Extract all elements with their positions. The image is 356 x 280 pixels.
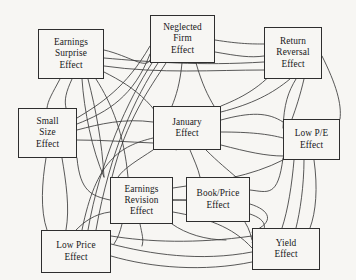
connection-curve: [215, 52, 264, 57]
node-label-line: Effect: [281, 59, 304, 70]
connection-curve: [221, 79, 290, 112]
node-label-line: Effect: [64, 252, 87, 263]
node-label-line: Earnings: [54, 37, 88, 48]
node-label-line: Book/Price: [197, 188, 240, 199]
node-label-line: Reversal: [276, 47, 309, 58]
connection-curve: [62, 158, 68, 230]
node-earnings-surprise-effect[interactable]: Earnings Surprise Effect: [38, 29, 104, 79]
connection-curve: [65, 79, 72, 108]
connection-curve: [114, 224, 122, 244]
connection-curve: [42, 158, 47, 230]
connection-curve: [172, 63, 182, 106]
node-label-line: Effect: [175, 128, 198, 139]
connection-curve: [118, 150, 153, 177]
connection-curve: [111, 244, 252, 257]
node-label-line: Yield: [276, 238, 297, 249]
connection-curve: [140, 224, 143, 246]
node-label-line: Effect: [206, 200, 229, 211]
connection-curve: [221, 114, 283, 122]
node-label-line: Effect: [130, 206, 153, 217]
connection-curve: [310, 160, 316, 228]
connection-curve: [215, 40, 264, 44]
node-earnings-revision-effect[interactable]: Earnings Revision Effect: [110, 177, 173, 224]
connection-curve: [250, 158, 283, 192]
node-low-pe-effect[interactable]: Low P/E Effect: [283, 119, 340, 160]
connection-curve: [111, 236, 252, 241]
connection-curve: [47, 79, 60, 108]
node-label-line: Firm: [173, 33, 191, 44]
connection-curve: [190, 150, 200, 177]
node-low-price-effect[interactable]: Low Price Effect: [41, 230, 111, 273]
node-label-line: January: [172, 117, 202, 128]
node-label-line: Effect: [274, 249, 297, 260]
node-yield-effect[interactable]: Yield Effect: [252, 228, 320, 270]
connection-curve: [206, 150, 236, 177]
node-label-line: Earnings: [125, 184, 159, 195]
connection-curve: [221, 132, 283, 138]
node-label-line: Size: [39, 127, 55, 138]
connection-curve: [76, 212, 110, 230]
node-label-line: Return: [280, 36, 306, 47]
node-label-line: Effect: [36, 139, 59, 150]
node-label-line: Low P/E: [295, 128, 329, 139]
connection-curve: [88, 79, 104, 177]
anomalies-diagram: Earnings Surprise Effect Neglected Firm …: [0, 0, 356, 280]
connection-curve: [221, 145, 283, 156]
connection-curve: [292, 79, 304, 119]
node-return-reversal-effect[interactable]: Return Reversal Effect: [264, 27, 322, 79]
connection-curve: [77, 158, 110, 200]
node-label-line: Effect: [300, 140, 323, 151]
node-label-line: Neglected: [163, 22, 202, 33]
node-neglected-firm-effect[interactable]: Neglected Firm Effect: [150, 15, 215, 63]
connection-curve: [296, 160, 304, 228]
node-label-line: Surprise: [55, 48, 87, 59]
connection-curve: [111, 256, 252, 268]
connection-curve: [172, 224, 226, 240]
node-label-line: Low Price: [56, 240, 95, 251]
node-label-line: Effect: [59, 60, 82, 71]
connection-curve: [322, 56, 340, 119]
node-small-size-effect[interactable]: Small Size Effect: [18, 108, 77, 158]
connection-curve: [282, 160, 294, 228]
node-label-line: Effect: [171, 45, 194, 56]
connection-curve: [196, 63, 214, 106]
node-label-line: Small: [36, 116, 58, 127]
node-label-line: Revision: [125, 195, 159, 206]
node-book-price-effect[interactable]: Book/Price Effect: [186, 177, 250, 222]
connection-curve: [104, 66, 264, 71]
node-january-effect[interactable]: January Effect: [153, 106, 221, 150]
